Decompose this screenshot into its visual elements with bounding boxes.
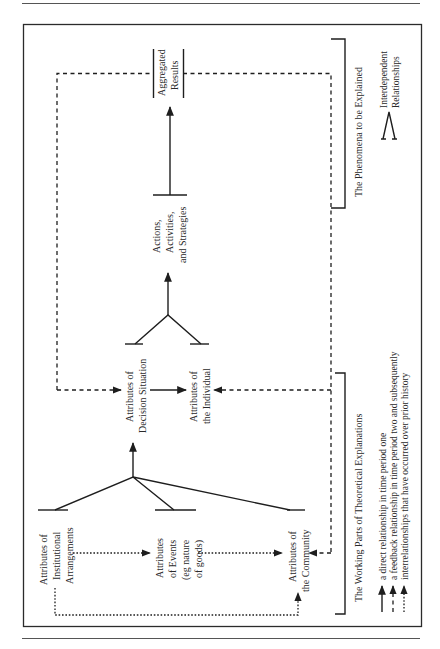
phenomena-label: The Phenomena to be Explained [353, 67, 364, 197]
node-actions: Actions, Activities, and Strategies [151, 207, 188, 263]
feedback-loop-line [57, 74, 331, 554]
legend: a direct relationship in time period one… [378, 351, 410, 612]
node-aggregated-results: Aggregated Results [156, 49, 180, 96]
interdependent-key: Interdependent Relationships [379, 51, 401, 139]
interdependent-line-2: Relationships [391, 56, 401, 108]
legend-label-direct: a direct relationship in time period one [378, 433, 388, 580]
diagram-canvas: Aggregated Results Actions, Activities, … [0, 0, 440, 649]
interdependent-icon [381, 112, 397, 139]
decision-line-2: Decision Situation [137, 359, 148, 433]
institutional-line-1: Attributes of [38, 534, 49, 585]
history-loop-line [55, 588, 298, 615]
events-line-1: Attributes [154, 538, 165, 578]
events-line-2: of Events [167, 540, 178, 578]
legend-label-feedback: a feedback relationship in time period t… [389, 351, 399, 580]
actions-line-2: Activities, [164, 212, 175, 253]
interdependent-line-1: Interdependent [379, 51, 389, 108]
legend-item-direct: a direct relationship in time period one [378, 433, 388, 612]
institutional-line-3: Arrangements [64, 527, 75, 584]
individual-line-2: the Individual [201, 368, 212, 424]
working-parts-bracket [335, 373, 345, 614]
node-individual: Attributes of the Individual [188, 368, 212, 424]
community-line-1: Attributes of [287, 531, 298, 582]
aggregated-line-1: Aggregated [156, 49, 167, 96]
decision-line-1: Attributes of [124, 371, 135, 422]
aggregated-line-2: Results [169, 60, 180, 90]
legend-item-history: interrelationships that have occurred ov… [400, 372, 410, 612]
working-parts-label: The Working Parts of Theoretical Explana… [353, 413, 364, 602]
legend-label-history: interrelationships that have occurred ov… [400, 372, 410, 580]
events-line-3: (eg nature [180, 539, 192, 580]
fork-decision-individual [135, 315, 201, 344]
fork-exogenous [55, 477, 290, 510]
institutional-line-2: Institutional [51, 531, 62, 580]
node-institutional: Attributes of Institutional Arrangements [38, 527, 75, 585]
community-line-2: the Community [300, 530, 311, 593]
actions-line-3: and Strategies [177, 207, 188, 263]
node-decision-situation: Attributes of Decision Situation [124, 359, 148, 433]
phenomena-bracket [331, 39, 345, 208]
individual-line-1: Attributes of [188, 371, 199, 422]
node-community: Attributes of the Community [287, 530, 311, 593]
events-line-4: of goods) [193, 540, 205, 578]
legend-item-feedback: a feedback relationship in time period t… [389, 351, 399, 612]
node-events: Attributes of Events (eg nature of goods… [154, 538, 205, 580]
actions-line-1: Actions, [151, 219, 162, 253]
